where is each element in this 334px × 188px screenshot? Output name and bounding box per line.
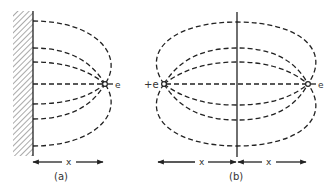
- field-line: [164, 62, 308, 84]
- field-line: [33, 84, 105, 104]
- field-line: [164, 84, 308, 120]
- field-line: [33, 21, 111, 84]
- right-distance-label: x: [266, 157, 272, 167]
- field-line: [33, 84, 105, 119]
- field-line: [156, 22, 315, 84]
- positive-image-charge: [162, 82, 167, 87]
- field-lines-b: [156, 22, 316, 146]
- distance-label-a: x: [66, 157, 72, 167]
- field-line: [33, 62, 105, 84]
- right-charge-label: e: [318, 80, 324, 90]
- left-charge-label: +e: [144, 79, 159, 90]
- negative-charge-b: [306, 82, 311, 87]
- conducting-wall-hatch: [13, 11, 33, 156]
- field-line: [164, 84, 308, 105]
- image-charge-diagram: e x (a) +e e x x (b): [0, 0, 334, 188]
- caption-b: (b): [229, 171, 243, 182]
- field-lines-a: [33, 21, 113, 146]
- charge-label-a: e: [115, 80, 121, 90]
- panel-a: e x (a): [13, 11, 121, 182]
- left-distance-label: x: [199, 157, 205, 167]
- field-line: [33, 84, 111, 146]
- panel-b: +e e x x (b): [144, 12, 324, 182]
- point-charge-a: [103, 82, 108, 87]
- field-line: [164, 48, 308, 84]
- caption-a: (a): [54, 171, 68, 182]
